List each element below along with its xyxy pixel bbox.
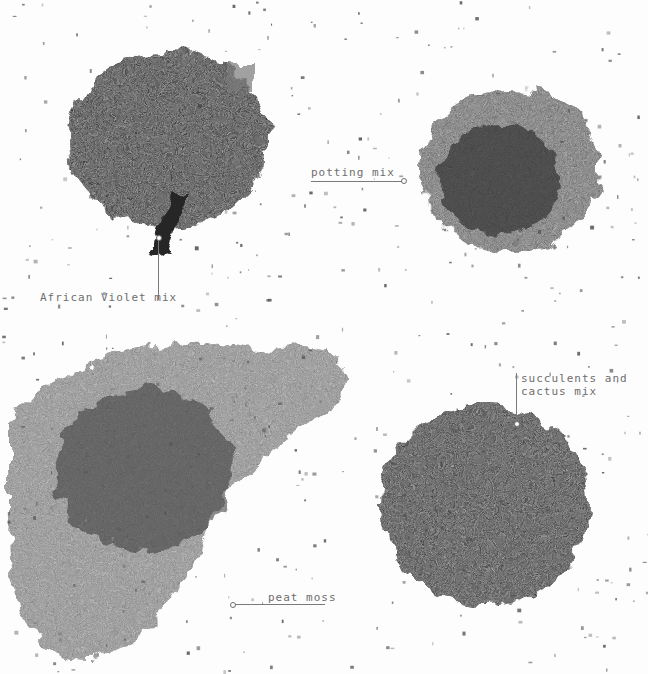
particle [234, 400, 235, 402]
particle [11, 297, 14, 299]
particle [517, 609, 521, 613]
particle [456, 409, 458, 413]
particle [475, 17, 479, 20]
particle [580, 289, 583, 292]
particle [309, 350, 312, 351]
particle [109, 278, 112, 279]
particle [606, 207, 609, 210]
particle [312, 473, 316, 476]
particle [631, 208, 633, 211]
particle [324, 539, 326, 542]
particle [442, 139, 444, 143]
particle [567, 246, 568, 248]
particle [233, 212, 237, 215]
particle [552, 567, 555, 571]
particle [112, 348, 114, 349]
particle [336, 361, 337, 363]
particle [562, 217, 564, 220]
particle [462, 632, 465, 636]
particle [444, 178, 446, 181]
particle [549, 190, 552, 192]
particle [240, 271, 242, 273]
particle [458, 28, 459, 30]
particle [604, 160, 606, 164]
particle [596, 636, 598, 637]
particle [455, 430, 459, 433]
particle [432, 642, 433, 645]
particle [450, 393, 452, 395]
particle [634, 176, 636, 179]
particle [109, 305, 111, 307]
particle [169, 442, 172, 446]
particle [64, 473, 66, 474]
particle [110, 388, 113, 390]
particle [131, 64, 133, 66]
particle [225, 210, 228, 214]
particle [83, 471, 87, 473]
particle [396, 37, 398, 38]
particle [474, 226, 477, 228]
particle [240, 244, 242, 247]
particle [59, 638, 62, 642]
particle [192, 485, 195, 488]
particle [441, 481, 444, 482]
peat-moss-leader-dot [230, 602, 236, 608]
particle [297, 636, 301, 639]
particle [33, 622, 37, 624]
particle [459, 217, 461, 220]
particle [13, 16, 17, 17]
particle [106, 347, 107, 349]
particle [71, 669, 75, 670]
particle [528, 662, 532, 664]
particle [199, 132, 203, 133]
particle [617, 195, 618, 199]
particle [563, 491, 566, 492]
particle [376, 427, 377, 431]
particle [227, 200, 229, 202]
particle [428, 44, 430, 45]
particle [188, 180, 190, 181]
particle [464, 253, 466, 257]
particle [394, 351, 397, 355]
particle [497, 248, 499, 251]
particle [8, 521, 11, 524]
particle [263, 9, 266, 12]
african-violet-leader-dot [156, 235, 162, 241]
particle [141, 581, 145, 583]
particle [40, 207, 42, 209]
particle [288, 635, 291, 637]
particle [602, 48, 604, 51]
particle [341, 269, 344, 272]
particle [323, 620, 324, 621]
particle [414, 529, 417, 532]
particle [196, 73, 199, 77]
particle [550, 171, 552, 174]
particle [124, 638, 126, 640]
african-violet-mix-pile [68, 52, 268, 256]
particle [254, 155, 257, 158]
particle [553, 51, 556, 53]
particle [34, 260, 38, 264]
particle [482, 450, 484, 453]
particle [408, 551, 410, 554]
particle [21, 426, 25, 428]
particle [340, 216, 343, 218]
particle [610, 582, 612, 583]
particle [618, 53, 621, 55]
particle [449, 262, 452, 264]
particle [622, 320, 626, 324]
particle [383, 433, 387, 436]
particle [471, 265, 473, 268]
particle [299, 470, 301, 474]
particle [228, 670, 231, 672]
particle [515, 136, 518, 139]
particle [611, 226, 614, 228]
particle [201, 192, 204, 195]
particle [187, 651, 190, 654]
particle [89, 195, 93, 198]
particle [282, 620, 284, 623]
particle [206, 293, 209, 296]
particle [154, 200, 156, 202]
particle [462, 565, 466, 569]
particle [418, 335, 420, 336]
